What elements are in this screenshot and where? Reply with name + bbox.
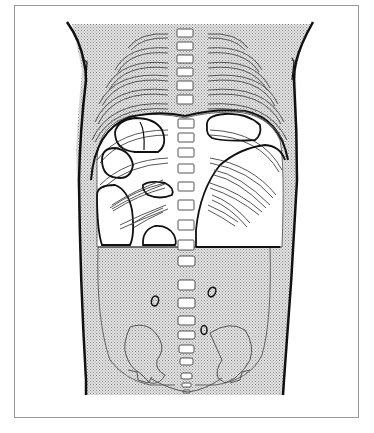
- torso-diagram: [0, 0, 374, 433]
